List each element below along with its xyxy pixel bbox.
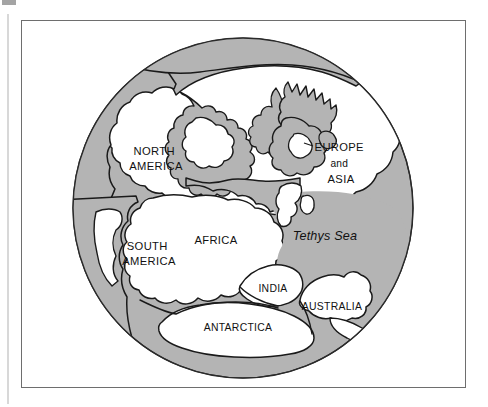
label-north-america-line1: NORTH [134, 145, 175, 157]
label-and: and [330, 158, 348, 169]
label-india-text: INDIA [258, 283, 287, 294]
label-europe: EUROPE [315, 141, 364, 153]
label-antarctica: ANTARCTICA [204, 322, 273, 333]
label-africa: AFRICA [194, 234, 237, 246]
label-australia: AUSTRALIA [302, 301, 362, 312]
label-india: INDIA [258, 283, 287, 294]
label-australia-text: AUSTRALIA [302, 301, 362, 312]
label-tethys-sea: Tethys Sea [293, 229, 358, 243]
label-tethys-sea-text: Tethys Sea [293, 229, 358, 243]
label-south-america-line1: SOUTH [127, 240, 168, 252]
label-south-america-line2: AMERICA [122, 255, 176, 267]
label-asia: ASIA [328, 173, 355, 185]
label-north-america-line2: AMERICA [129, 160, 183, 172]
pangaea-globe-diagram: NORTH AMERICA EUROPE and ASIA Tethys Sea… [0, 0, 488, 407]
label-antarctica-text: ANTARCTICA [204, 322, 273, 333]
coast-tethys-peninsula-small [300, 195, 314, 214]
label-africa-text: AFRICA [194, 234, 237, 246]
